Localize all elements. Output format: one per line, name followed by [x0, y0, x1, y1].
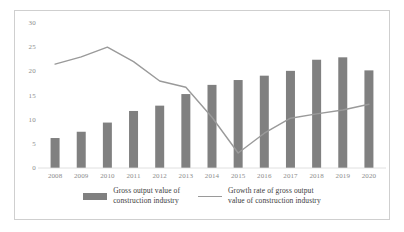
legend-item-label: Gross output value of construction indus… — [113, 186, 180, 206]
x-tick-2019: 2019 — [330, 172, 356, 180]
x-tick-2017: 2017 — [278, 172, 304, 180]
y-tick-10: 10 — [18, 116, 36, 124]
x-tick-2015: 2015 — [225, 172, 251, 180]
y-tick-5: 5 — [18, 140, 36, 148]
y-tick-0: 0 — [18, 164, 36, 172]
legend-item-gross-output-value: Gross output value of construction indus… — [83, 186, 180, 206]
x-tick-2018: 2018 — [304, 172, 330, 180]
x-tick-2012: 2012 — [147, 172, 173, 180]
x-tick-2009: 2009 — [68, 172, 94, 180]
line-swatch-icon — [198, 193, 222, 200]
x-tick-2014: 2014 — [199, 172, 225, 180]
x-tick-2008: 2008 — [42, 172, 68, 180]
y-tick-30: 30 — [18, 19, 36, 27]
chart-legend: Gross output value of construction indus… — [14, 186, 390, 216]
x-tick-2020: 2020 — [356, 172, 382, 180]
bar-swatch-icon — [83, 193, 107, 200]
x-tick-2016: 2016 — [251, 172, 277, 180]
chart-figure: 051015202530 200820092010201120122013201… — [0, 0, 404, 232]
x-tick-2011: 2011 — [121, 172, 147, 180]
x-tick-2013: 2013 — [173, 172, 199, 180]
y-tick-20: 20 — [18, 67, 36, 75]
legend-item-label: Growth rate of gross output value of con… — [228, 186, 321, 206]
y-tick-15: 15 — [18, 92, 36, 100]
y-tick-25: 25 — [18, 43, 36, 51]
x-tick-2010: 2010 — [94, 172, 120, 180]
legend-item-growth-rate: Growth rate of gross output value of con… — [198, 186, 321, 206]
